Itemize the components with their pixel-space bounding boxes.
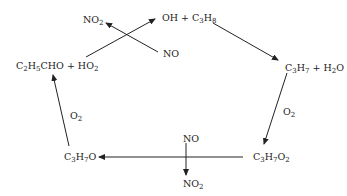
- label-no2-top: NO2: [83, 15, 104, 25]
- node-c3h7o2: C3H7O2: [253, 152, 290, 162]
- label-o2-right: O2: [283, 107, 295, 117]
- node-oh-c3h8: OH + C3H8: [162, 13, 217, 23]
- node-c3h7o: C3H7O: [64, 152, 96, 162]
- reaction-arrows: [0, 0, 347, 196]
- node-c3h7-h2o: C3H7 + H2O: [285, 63, 344, 73]
- node-c2h5cho-ho2: C2H5CHO + HO2: [16, 61, 98, 71]
- arrow-no-to-no2-top: [106, 23, 158, 52]
- label-no-top: NO: [163, 49, 179, 59]
- arrow-to-c3h7: [213, 23, 278, 60]
- label-no-bottom: NO: [183, 134, 199, 144]
- label-no2-bottom: NO2: [183, 179, 204, 189]
- arrow-to-c2h5cho: [53, 75, 69, 146]
- label-o2-left: O2: [70, 111, 82, 121]
